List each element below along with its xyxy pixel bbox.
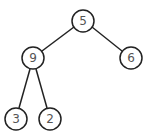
tree-node: 6 <box>120 47 142 69</box>
edge-5-9 <box>42 27 74 51</box>
tree-diagram: 5 9 6 3 2 <box>0 0 158 137</box>
edge-9-2 <box>36 69 47 108</box>
tree-node: 9 <box>22 47 44 69</box>
node-label: 2 <box>46 112 54 126</box>
tree-node: 3 <box>5 108 27 130</box>
edge-9-3 <box>19 69 30 108</box>
node-label: 5 <box>79 14 87 28</box>
node-label: 9 <box>29 51 37 65</box>
node-label: 3 <box>12 112 20 126</box>
tree-node: 5 <box>72 10 94 32</box>
tree-node: 2 <box>39 108 61 130</box>
node-label: 6 <box>127 51 135 65</box>
edge-5-6 <box>92 27 122 51</box>
